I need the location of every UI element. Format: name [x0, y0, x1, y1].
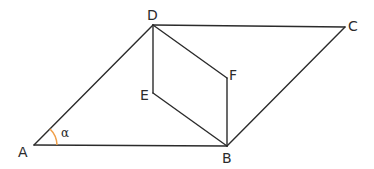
point-label-c: C	[348, 18, 358, 34]
point-label-d: D	[147, 7, 158, 23]
segment-dc	[153, 25, 345, 27]
segment-ad	[34, 25, 153, 145]
angle-alpha-label: α	[61, 126, 69, 140]
segment-df	[153, 25, 227, 78]
segment-eb	[153, 93, 227, 146]
angle-alpha-arc	[50, 129, 57, 145]
point-label-e: E	[140, 87, 149, 103]
point-label-f: F	[229, 67, 237, 83]
segment-cb	[227, 27, 345, 146]
point-label-a: A	[18, 144, 28, 160]
geometry-diagram: α A B C D E F	[0, 0, 374, 169]
segment-ab	[34, 145, 227, 146]
point-label-b: B	[222, 150, 232, 166]
